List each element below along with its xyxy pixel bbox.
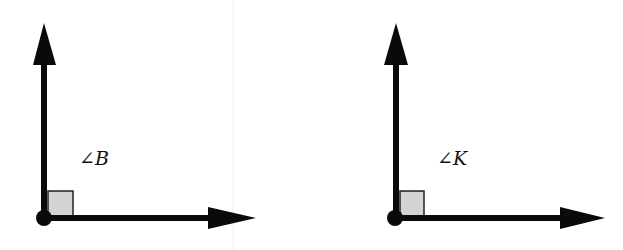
right-angle-marker [400,191,424,216]
figure-angle-k: ∠K [384,23,605,229]
right-arrowhead-icon [560,207,605,229]
diagram-canvas: ∠B ∠K [0,0,623,250]
angle-label-k: ∠K [437,147,469,169]
vertex-point [387,210,403,226]
up-arrowhead-icon [384,23,408,65]
figure-angle-b: ∠B [33,23,256,229]
vertex-point [36,210,52,226]
right-angle-marker [48,191,73,216]
right-arrowhead-icon [208,207,256,229]
angle-label-b: ∠B [79,147,109,169]
up-arrowhead-icon [33,23,56,65]
